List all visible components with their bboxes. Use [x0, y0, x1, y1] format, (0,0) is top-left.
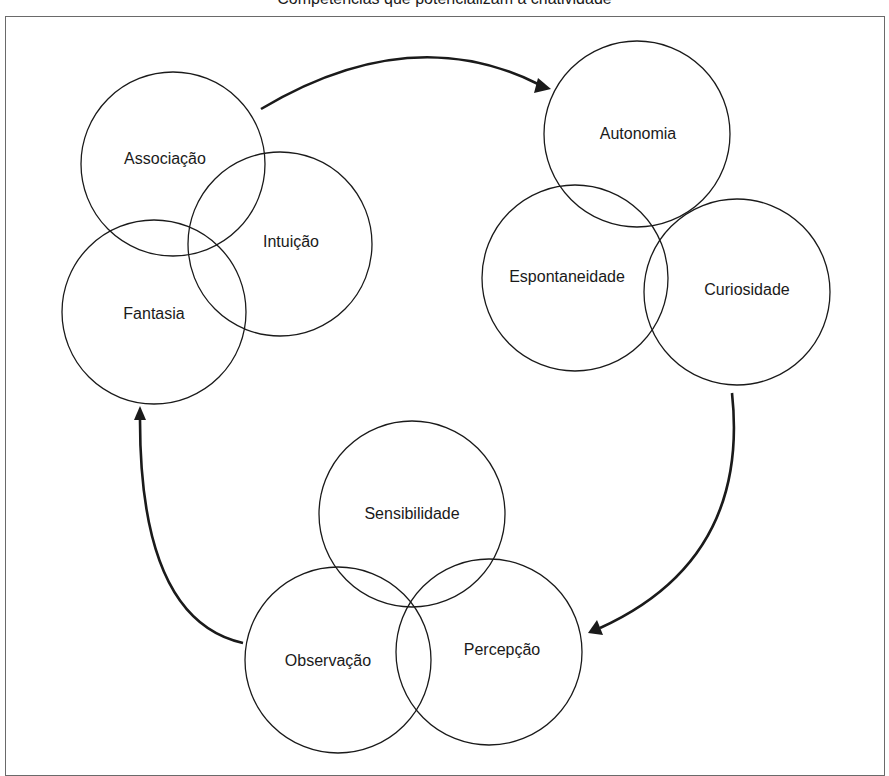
group-3	[245, 421, 582, 753]
label-fantasia: Fantasia	[123, 305, 184, 323]
arrow-group2-to-group3	[588, 393, 734, 635]
arrow-line	[261, 57, 538, 109]
label-associacao: Associação	[124, 150, 206, 168]
arrow-line	[600, 393, 734, 628]
label-autonomia: Autonomia	[600, 125, 677, 143]
arrowhead-icon	[134, 406, 146, 420]
arrow-group3-to-group1	[134, 406, 243, 643]
arrow-group1-to-group2	[261, 57, 551, 109]
label-percepcao: Percepção	[464, 641, 541, 659]
label-espontaneidade: Espontaneidade	[509, 268, 625, 286]
label-observacao: Observação	[285, 652, 371, 670]
arrowhead-icon	[534, 78, 551, 93]
label-intuicao: Intuição	[263, 233, 319, 251]
arrow-line	[140, 420, 243, 643]
label-sensibilidade: Sensibilidade	[364, 505, 459, 523]
label-curiosidade: Curiosidade	[704, 281, 789, 299]
group-1	[62, 72, 372, 404]
